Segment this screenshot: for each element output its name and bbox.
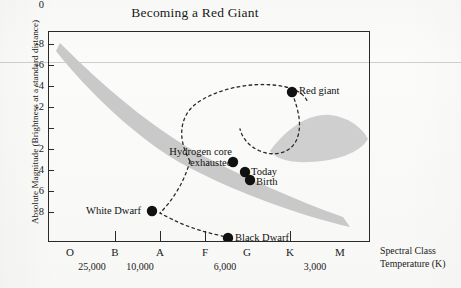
x-class-label-a: A [145,246,175,258]
x-tick-mark [115,231,116,242]
x-class-label-m: M [325,246,355,258]
y-tick-label: 6 [22,186,44,196]
label-hydrogen-core-exhausted: Hydrogen core exhausted [150,146,232,168]
label-red-giant: Red giant [299,85,340,97]
x-class-label-f: F [190,246,220,258]
y-tick-label: 8 [22,207,44,217]
x-tick-mark [290,231,291,242]
x-class-label-g: G [232,246,262,258]
x-temp-label-6000: 6,000 [195,261,255,272]
x-axis-title: Spectral Class Temperature (K) [380,244,445,270]
x-temp-label-10000: 10,000 [110,261,170,272]
label-hydrogen-core-line1: Hydrogen core [150,146,232,157]
screenshot-root: Becoming a Red Giant Absolute Magnitude … [0,0,461,288]
label-black-dwarf: Black Dwarf [235,232,289,244]
x-class-label-b: B [100,246,130,258]
x-axis-title-line2: Temperature (K) [380,257,445,270]
x-temp-label-3000: 3,000 [285,261,345,272]
y-tick-label: 2 [22,144,44,154]
y-tick-label: 4 [22,165,44,175]
x-class-label-k: K [275,246,305,258]
x-class-label-o: O [55,246,85,258]
label-birth: Birth [256,176,278,188]
x-tick-mark [205,231,206,242]
page-title: Becoming a Red Giant [0,5,390,21]
y-tick-label: -4 [22,81,44,91]
y-tick-label: -8 [22,39,44,49]
label-hydrogen-core-line2: exhausted [150,157,232,168]
y-tick-label: -6 [22,60,44,70]
x-tick-mark [160,231,161,242]
y-tick-label: -2 [22,102,44,112]
label-white-dwarf: White Dwarf [86,205,141,217]
y-tick-label: 0 [22,0,44,10]
x-axis-title-line1: Spectral Class [380,244,445,257]
y-axis-tick-labels: -8 -6 -4 -2 0 2 4 6 8 [18,0,44,288]
